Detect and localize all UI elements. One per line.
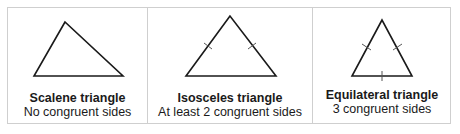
congruent-tick-mark bbox=[204, 43, 212, 49]
equilateral-triangle-icon bbox=[352, 20, 412, 81]
equilateral-caption: Equilateral triangle 3 congruent sides bbox=[313, 88, 451, 116]
panel-title: Isosceles triangle bbox=[148, 91, 312, 105]
panel-title: Equilateral triangle bbox=[313, 88, 451, 102]
panel-description: No congruent sides bbox=[8, 105, 147, 119]
panel-title: Scalene triangle bbox=[8, 91, 147, 105]
panel-description: At least 2 congruent sides bbox=[148, 105, 312, 119]
scalene-triangle-icon bbox=[34, 22, 123, 76]
panel-description: 3 congruent sides bbox=[313, 102, 451, 116]
isosceles-caption: Isosceles triangle At least 2 congruent … bbox=[148, 91, 312, 119]
isosceles-triangle-icon bbox=[186, 16, 276, 76]
scalene-caption: Scalene triangle No congruent sides bbox=[8, 91, 147, 119]
